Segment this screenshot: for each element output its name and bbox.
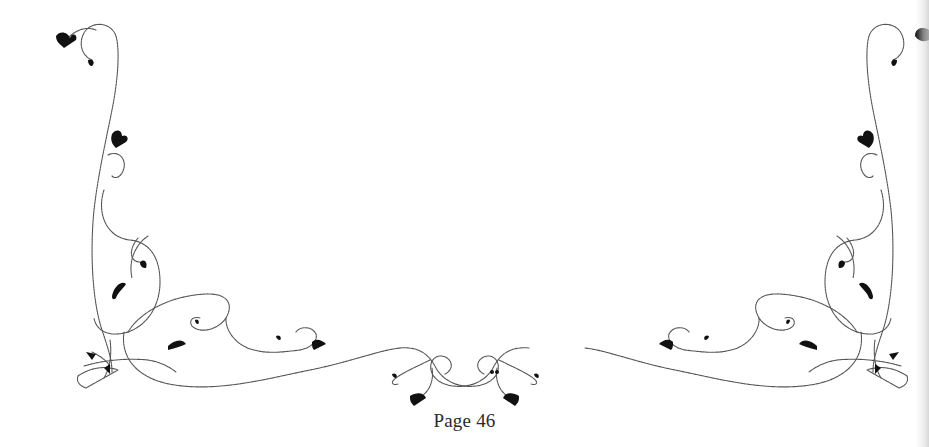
- bud-leaf-icon: [276, 335, 281, 340]
- heart-leaf-icon: [56, 32, 76, 48]
- center-knot-ornament: [392, 348, 539, 406]
- page-number: Page 46: [0, 410, 929, 432]
- heart-leaf-icon: [112, 283, 126, 300]
- page-edge-shadow: [915, 0, 929, 447]
- right-vine-ornament: [585, 24, 929, 388]
- dot-icon: [490, 370, 494, 374]
- bud-leaf-icon: [88, 59, 94, 66]
- heart-leaf-icon: [168, 340, 186, 350]
- floral-border-ornament: [0, 0, 929, 447]
- bud-leaf-icon: [140, 260, 147, 268]
- dot-icon: [495, 370, 499, 374]
- heart-leaf-icon: [111, 130, 127, 148]
- heart-leaf-icon: [410, 393, 426, 406]
- document-page: Page 46: [0, 0, 929, 447]
- bud-leaf-icon: [392, 373, 397, 378]
- heart-leaf-icon: [503, 393, 519, 406]
- heart-leaf-icon: [312, 340, 326, 350]
- left-vine-ornament: [68, 24, 400, 388]
- bud-leaf-icon: [534, 373, 539, 378]
- bud-leaf-icon: [195, 319, 199, 324]
